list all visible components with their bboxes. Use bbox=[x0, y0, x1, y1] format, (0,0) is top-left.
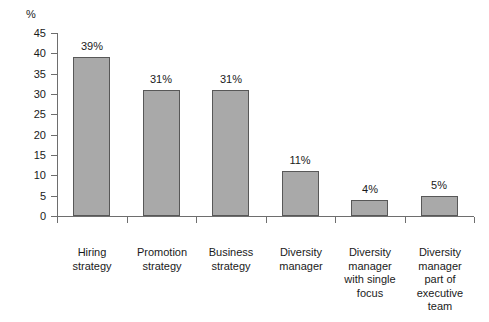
bar-chart: % 454035302520151050 39%31%31%11%4%5% Hi… bbox=[0, 0, 489, 322]
x-axis-tick bbox=[266, 217, 267, 223]
x-axis-category-label: Promotion strategy bbox=[127, 246, 197, 273]
bar-value-label: 11% bbox=[270, 155, 330, 166]
y-axis-tick bbox=[51, 175, 57, 176]
x-axis-tick bbox=[335, 217, 336, 223]
x-axis-category-label: Diversity manager part of executive team bbox=[405, 246, 475, 314]
y-axis-tick-label: 30 bbox=[20, 89, 46, 100]
y-axis-tick-label: 5 bbox=[20, 191, 46, 202]
x-axis-tick bbox=[474, 217, 475, 223]
y-axis-tick bbox=[51, 33, 57, 34]
y-axis-tick-label: 45 bbox=[20, 28, 46, 39]
y-axis-tick bbox=[51, 196, 57, 197]
x-axis-category-label: Business strategy bbox=[196, 246, 266, 273]
bar bbox=[143, 90, 180, 216]
y-axis-tick-label: 20 bbox=[20, 130, 46, 141]
y-axis-tick-label: 40 bbox=[20, 48, 46, 59]
y-axis-tick-label: 35 bbox=[20, 69, 46, 80]
x-axis-tick bbox=[196, 217, 197, 223]
bar bbox=[212, 90, 249, 216]
x-axis-category-label: Diversity manager bbox=[266, 246, 336, 273]
y-axis-tick-label: 15 bbox=[20, 150, 46, 161]
y-axis-unit-label: % bbox=[26, 8, 36, 20]
bar bbox=[73, 57, 110, 216]
y-axis-tick bbox=[51, 53, 57, 54]
x-axis-category-label: Diversity manager with single focus bbox=[335, 246, 405, 300]
x-axis-tick bbox=[127, 217, 128, 223]
x-axis-tick bbox=[405, 217, 406, 223]
bar-value-label: 39% bbox=[62, 41, 122, 52]
y-axis-tick bbox=[51, 94, 57, 95]
y-axis-tick bbox=[51, 135, 57, 136]
x-axis-category-label: Hiring strategy bbox=[57, 246, 127, 273]
bar bbox=[282, 171, 319, 216]
bar-value-label: 5% bbox=[409, 180, 469, 191]
y-axis-tick bbox=[51, 74, 57, 75]
x-axis-tick bbox=[57, 217, 58, 223]
y-axis-line bbox=[57, 33, 58, 217]
y-axis-tick bbox=[51, 114, 57, 115]
bar-value-label: 4% bbox=[340, 184, 400, 195]
y-axis-tick-label: 0 bbox=[20, 211, 46, 222]
y-axis-tick-label: 10 bbox=[20, 170, 46, 181]
bar bbox=[351, 200, 388, 216]
y-axis-tick-label: 25 bbox=[20, 109, 46, 120]
bar-value-label: 31% bbox=[201, 74, 261, 85]
bar bbox=[421, 196, 458, 216]
bar-value-label: 31% bbox=[131, 74, 191, 85]
y-axis-tick bbox=[51, 155, 57, 156]
